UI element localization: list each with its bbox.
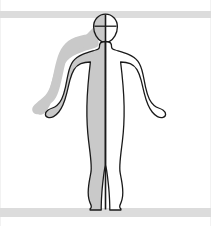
anatomy-figure-panel [0, 0, 211, 226]
right-body-unshaded-fill [106, 42, 166, 211]
left-body-region [45, 42, 105, 211]
right-body-region [106, 42, 166, 211]
left-body-shaded-fill [45, 42, 105, 211]
human-body-figure [0, 0, 211, 226]
body-group [32, 14, 165, 210]
head-right-unshaded [106, 14, 118, 41]
